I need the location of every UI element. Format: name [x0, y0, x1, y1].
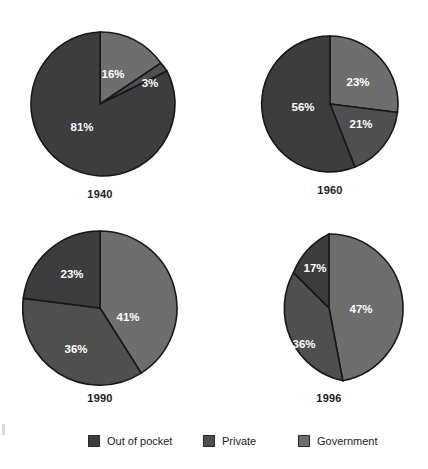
legend-label-government: Government — [317, 435, 378, 447]
pie-slice-label-1990-out-of-pocket: 23% — [60, 268, 83, 280]
pie-panel-1996: 47% 36% 17% 1996 — [253, 232, 405, 416]
chart-legend: Out of pocket Private Government — [0, 430, 428, 452]
pie-slice-label-1990-private: 36% — [64, 343, 87, 355]
pie-year-label-1960: 1960 — [258, 184, 402, 196]
pie-slice-label-1996-out-of-pocket: 17% — [303, 262, 326, 274]
pie-slice-label-1960-private: 21% — [349, 118, 372, 130]
pie-chart-1960: 23% 21% 56% — [258, 32, 402, 176]
pie-slice-label-1940-out-of-pocket: 81% — [70, 121, 93, 133]
pie-chart-1996: 47% 36% 17% — [253, 232, 405, 384]
legend-item-government: Government — [298, 430, 378, 452]
pie-slice-label-1960-government: 23% — [346, 76, 369, 88]
pie-slice-label-1996-private: 36% — [292, 338, 315, 350]
pie-chart-1940: 16% 3% 81% — [24, 28, 176, 180]
pie-slice-label-1940-government: 16% — [101, 68, 124, 80]
legend-swatch-government — [298, 435, 310, 447]
pie-panel-1990: 41% 36% 23% 1990 — [22, 230, 178, 416]
pie-slice-label-1990-government: 41% — [116, 311, 139, 323]
pie-panel-1960: 23% 21% 56% 1960 — [258, 32, 402, 210]
legend-item-out-of-pocket: Out of pocket — [88, 430, 172, 452]
pie-slice-1960-government — [330, 36, 398, 113]
legend-label-private: Private — [222, 435, 256, 447]
pie-year-label-1996: 1996 — [253, 392, 405, 404]
legend-swatch-out-of-pocket — [88, 435, 100, 447]
pie-year-label-1990: 1990 — [22, 392, 178, 404]
pie-chart-1990: 41% 36% 23% — [22, 230, 178, 386]
pie-slice-label-1940-private: 3% — [142, 77, 159, 89]
legend-label-out-of-pocket: Out of pocket — [107, 435, 172, 447]
legend-item-private: Private — [203, 430, 256, 452]
pie-panel-1940: 16% 3% 81% 1940 — [24, 28, 176, 210]
pie-slice-label-1960-out-of-pocket: 56% — [291, 101, 314, 113]
scan-edge-artifact — [2, 424, 5, 435]
pie-slice-label-1996-government: 47% — [349, 303, 372, 315]
pie-chart-figure: 16% 3% 81% 1940 23% 21% 56% 1960 — [0, 0, 428, 469]
pie-year-label-1940: 1940 — [24, 188, 176, 200]
legend-swatch-private — [203, 435, 215, 447]
